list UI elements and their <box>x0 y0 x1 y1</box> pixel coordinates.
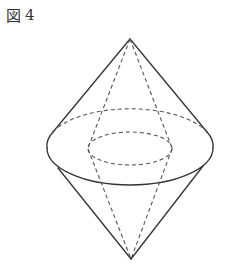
lower-cone-right-edge <box>131 166 203 259</box>
inner-cone-upper-left <box>88 39 130 148</box>
inner-cone-lower-left <box>88 149 131 259</box>
double-cone-diagram <box>0 0 234 268</box>
base-ellipse-back-hidden <box>53 109 207 132</box>
upper-cone-right-edge <box>130 39 207 132</box>
inner-cone-lower-right <box>131 149 172 259</box>
upper-cone-left-edge <box>53 39 130 132</box>
inner-ellipse-hidden <box>88 132 172 165</box>
base-ellipse-left-rim <box>47 132 53 148</box>
base-ellipse-right-rim <box>207 132 213 148</box>
base-ellipse-front <box>47 148 213 185</box>
